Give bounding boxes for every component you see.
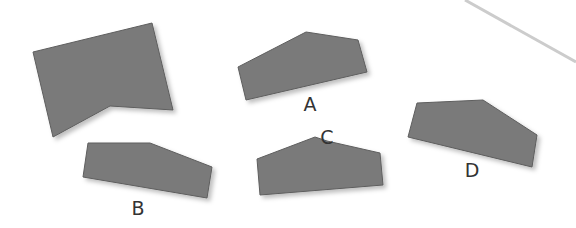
option-a-label: A [304,93,317,115]
option-d-shape[interactable] [408,100,537,167]
option-d-label: D [465,159,480,181]
option-a-shape[interactable] [238,32,367,100]
main-shape [33,23,173,137]
diagram-canvas: A B C D [0,0,576,228]
option-c-label: C [320,126,333,148]
diagonal-line [465,0,576,62]
option-b-shape[interactable] [83,143,212,198]
option-b-label: B [131,197,144,219]
